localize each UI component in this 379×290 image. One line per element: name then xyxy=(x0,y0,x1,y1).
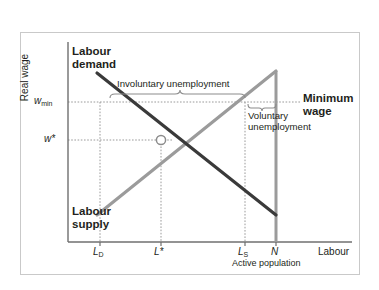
involuntary-unemployment-label: Involuntary unemployment xyxy=(117,79,230,90)
labour-supply-label: Labour supply xyxy=(72,205,111,231)
figure-frame xyxy=(20,32,360,275)
x-tick-label-n: N xyxy=(271,246,278,257)
labour-demand-label: Labour demand xyxy=(72,45,116,71)
voluntary-unemployment-line2: unemployment xyxy=(248,121,311,132)
y-tick-label-wmin: wmin xyxy=(34,95,53,106)
figure-canvas: Real wage xyxy=(0,0,379,290)
active-population-note: Active population xyxy=(232,258,301,268)
labour-demand-label-line2: demand xyxy=(72,58,116,70)
minimum-wage-label-line1: Minimum xyxy=(303,92,353,104)
x-tick-label-ls: LS xyxy=(238,246,248,257)
labour-supply-label-line1: Labour xyxy=(72,205,111,217)
voluntary-unemployment-label: Voluntary unemployment xyxy=(248,111,311,132)
voluntary-unemployment-line1: Voluntary xyxy=(248,110,288,121)
labour-supply-label-line2: supply xyxy=(72,218,109,230)
labour-demand-label-line1: Labour xyxy=(72,45,111,57)
x-axis-label: Labour xyxy=(318,246,349,257)
y-tick-label-wstar: w* xyxy=(44,133,55,144)
x-tick-label-ld: LD xyxy=(93,246,104,257)
y-axis-label: Real wage xyxy=(19,40,30,116)
x-tick-label-lstar: L* xyxy=(154,246,163,257)
